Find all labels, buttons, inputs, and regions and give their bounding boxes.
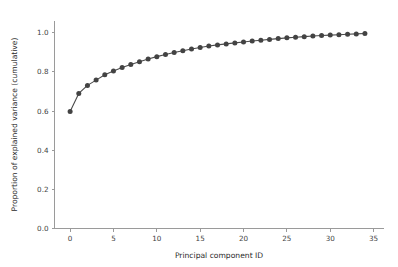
x-tick-label: 20 [239, 234, 249, 243]
data-point [154, 54, 159, 59]
data-point [362, 31, 367, 36]
data-point [258, 38, 263, 43]
y-tick-label: 0.2 [37, 185, 48, 194]
data-point [284, 35, 289, 40]
data-point [293, 35, 298, 40]
y-tick-label: 0.4 [37, 146, 49, 155]
x-axis-title: Principal component ID [175, 251, 263, 260]
data-point [276, 36, 281, 41]
data-point [310, 34, 315, 39]
data-point [85, 83, 90, 88]
data-point [94, 78, 99, 83]
data-point [224, 41, 229, 46]
y-tick-label: 1.0 [37, 28, 49, 37]
x-tick-label: 5 [111, 234, 116, 243]
y-tick-label: 0.8 [37, 67, 49, 76]
y-tick-label: 0.0 [37, 224, 49, 233]
data-point [102, 72, 107, 77]
data-point [354, 31, 359, 36]
data-point [267, 37, 272, 42]
data-point [206, 44, 211, 49]
data-point [215, 42, 220, 47]
data-point [111, 68, 116, 73]
data-point [128, 62, 133, 67]
x-tick-label: 30 [326, 234, 336, 243]
data-point [163, 52, 168, 57]
y-tick-label: 0.6 [37, 107, 49, 116]
data-point [180, 48, 185, 53]
data-point [146, 56, 151, 61]
data-point [336, 32, 341, 37]
x-tick-label: 35 [369, 234, 378, 243]
data-point [76, 91, 81, 96]
data-point [172, 50, 177, 55]
x-tick-label: 10 [152, 234, 162, 243]
data-point [198, 45, 203, 50]
x-tick-label: 0 [68, 234, 73, 243]
x-tick-label: 25 [282, 234, 291, 243]
chart-figure: 0.00.20.40.60.81.0 05101520253035 Princi… [0, 0, 398, 267]
data-point [345, 32, 350, 37]
x-tick-label: 15 [196, 234, 205, 243]
data-point [137, 59, 142, 64]
data-point [120, 65, 125, 70]
data-point [302, 34, 307, 39]
data-point [68, 109, 73, 114]
data-point [232, 40, 237, 45]
y-axis-title: Proportion of explained variance (cumula… [10, 37, 19, 211]
data-point [319, 33, 324, 38]
data-point [250, 38, 255, 43]
data-point [328, 33, 333, 38]
data-point [241, 39, 246, 44]
scree-plot-svg: 0.00.20.40.60.81.0 05101520253035 Princi… [0, 0, 398, 267]
figure-background [0, 0, 398, 267]
data-point [189, 46, 194, 51]
